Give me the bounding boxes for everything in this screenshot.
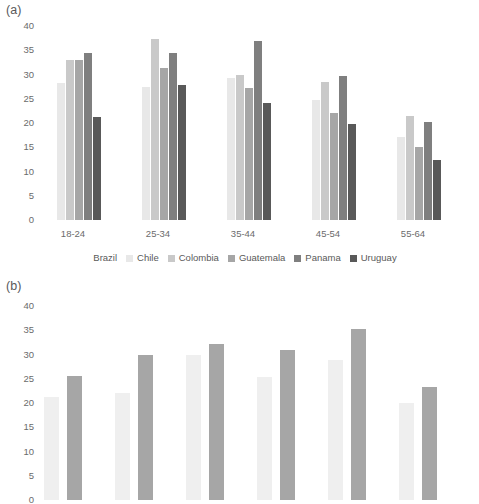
bar-chile [57, 83, 65, 220]
bar-colombia [236, 75, 244, 221]
y-axis-tick: 20 [8, 118, 34, 128]
bar-panama [254, 41, 262, 220]
legend-item-uruguay[interactable]: Uruguay [350, 253, 397, 263]
legend-item-panama[interactable]: Panama [294, 253, 340, 263]
bar-group [115, 306, 165, 500]
x-axis-label: 18-24 [48, 229, 98, 239]
y-axis-tick: 5 [8, 471, 34, 481]
y-axis-tick: 30 [8, 70, 34, 80]
bar-series-1 [257, 377, 272, 500]
y-axis-tick: 20 [8, 398, 34, 408]
bar-uruguay [433, 160, 441, 220]
legend-label: Uruguay [361, 253, 397, 263]
bar-group: 55-64 [388, 26, 438, 220]
bar-group: 25-34 [133, 26, 183, 220]
y-axis-tick: 5 [8, 191, 34, 201]
bar-group: 35-44 [218, 26, 268, 220]
bar-series-1 [186, 355, 201, 501]
legend-item-brazil[interactable]: Brazil [82, 253, 117, 263]
y-axis-tick: 35 [8, 326, 34, 336]
bar-uruguay [178, 85, 186, 220]
bar-series-2 [209, 344, 224, 500]
bar-colombia [151, 39, 159, 220]
bar-series-1 [328, 360, 343, 500]
y-axis-tick: 35 [8, 46, 34, 56]
y-axis-tick: 15 [8, 143, 34, 153]
legend-item-chile[interactable]: Chile [126, 253, 159, 263]
chart-a-legend: BrazilChileColombiaGuatemalaPanamaUrugua… [0, 253, 479, 263]
bar-panama [169, 53, 177, 220]
bar-chile [142, 87, 150, 220]
bar-panama [424, 122, 432, 220]
legend-swatch-icon [126, 255, 133, 262]
legend-swatch-icon [82, 255, 89, 262]
bar-series-1 [115, 393, 130, 500]
bar-group: 45-54 [303, 26, 353, 220]
bar-group: 18-24 [48, 26, 98, 220]
panel-b-label: (b) [6, 279, 22, 293]
y-axis-tick: 40 [8, 301, 34, 311]
legend-swatch-icon [228, 255, 235, 262]
x-axis-label: 45-54 [303, 229, 353, 239]
x-axis-label: 25-34 [133, 229, 183, 239]
bar-uruguay [263, 103, 271, 220]
chart-b-plot-area: 0510152025303540 [40, 306, 479, 500]
bar-uruguay [93, 117, 101, 220]
y-axis-tick: 40 [8, 21, 34, 31]
legend-item-colombia[interactable]: Colombia [168, 253, 219, 263]
bar-colombia [321, 82, 329, 220]
bar-guatemala [330, 113, 338, 220]
y-axis-tick: 25 [8, 94, 34, 104]
bar-colombia [66, 60, 74, 220]
legend-label: Colombia [179, 253, 219, 263]
y-axis-tick: 30 [8, 350, 34, 360]
bar-colombia [406, 116, 414, 220]
legend-swatch-icon [168, 255, 175, 262]
y-axis-tick: 15 [8, 423, 34, 433]
legend-label: Guatemala [239, 253, 285, 263]
panel-a-label: (a) [6, 3, 22, 17]
bar-series-1 [44, 397, 59, 500]
y-axis-tick: 25 [8, 374, 34, 384]
y-axis-tick: 0 [8, 495, 34, 504]
legend-item-guatemala[interactable]: Guatemala [228, 253, 285, 263]
bar-series-2 [280, 350, 295, 500]
y-axis-tick: 10 [8, 167, 34, 177]
x-axis-label: 55-64 [388, 229, 438, 239]
y-axis-tick: 0 [8, 215, 34, 225]
bar-chile [227, 78, 235, 220]
bar-series-2 [138, 355, 153, 500]
bar-group [186, 306, 236, 500]
bar-group [328, 306, 378, 500]
bar-chile [312, 100, 320, 220]
legend-label: Chile [137, 253, 159, 263]
bar-series-2 [422, 387, 437, 500]
panel-b: (b) 0510152025303540 [0, 277, 479, 504]
bar-uruguay [348, 124, 356, 220]
bar-group [44, 306, 94, 500]
legend-label: Panama [305, 253, 340, 263]
y-axis-tick: 10 [8, 447, 34, 457]
bar-chile [397, 137, 405, 220]
bar-series-1 [399, 403, 414, 500]
legend-swatch-icon [350, 255, 357, 262]
bar-panama [84, 53, 92, 220]
bar-guatemala [415, 147, 423, 220]
legend-label: Brazil [93, 253, 117, 263]
chart-a-plot-area: 051015202530354018-2425-3435-4445-5455-6… [40, 26, 479, 220]
bar-series-2 [351, 329, 366, 500]
panel-a: (a) 051015202530354018-2425-3435-4445-54… [0, 0, 479, 277]
bar-series-2 [67, 376, 82, 500]
legend-swatch-icon [294, 255, 301, 262]
x-axis-label: 35-44 [218, 229, 268, 239]
bar-guatemala [75, 60, 83, 220]
bar-guatemala [245, 88, 253, 220]
bar-guatemala [160, 68, 168, 220]
bar-group [399, 306, 449, 500]
bar-group [257, 306, 307, 500]
bar-panama [339, 76, 347, 220]
